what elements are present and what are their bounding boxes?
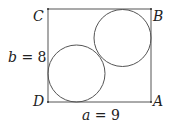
vertex-dot-a [150, 101, 152, 103]
vertex-label-d: D [32, 93, 44, 109]
width-label: a = 9 [82, 107, 120, 123]
vertex-dot-d [47, 101, 49, 103]
circle-upper-right [94, 10, 151, 67]
height-label: b = 8 [8, 49, 47, 65]
vertex-dot-c [47, 8, 49, 10]
circle-lower-left [48, 45, 105, 102]
vertex-label-a: A [151, 93, 163, 109]
vertex-label-c: C [33, 8, 44, 24]
vertex-dot-b [150, 8, 152, 10]
vertex-label-b: B [152, 8, 163, 24]
rectangle-circles-diagram: C B D A b = 8 a = 9 [0, 0, 176, 126]
